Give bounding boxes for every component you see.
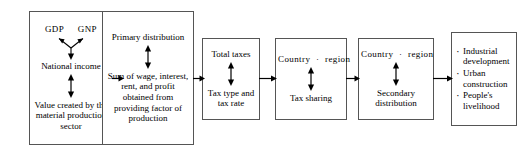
connector-arrow-primary-to-taxes-icon xyxy=(193,74,205,83)
country-region-label: Country · region xyxy=(276,54,346,65)
gdp-gnp-labels: GDP GNP xyxy=(30,24,112,35)
connector-arrow-secondary-to-spending-icon xyxy=(433,74,453,83)
spending-list: Industrial development Urban constructio… xyxy=(452,46,516,113)
region-label: region xyxy=(408,49,433,59)
total-taxes-label: Total taxes xyxy=(203,49,259,60)
stage-box-national-income: GDP GNP National income Value created by… xyxy=(29,11,113,145)
flow-diagram: GDP GNP National income Value created by… xyxy=(0,0,524,156)
stage-box-secondary-distribution: Country · region Secondary distribution xyxy=(358,38,434,120)
country-label: Country xyxy=(361,49,393,59)
region-label: region xyxy=(325,54,350,64)
value-created-label: Value created by the material production… xyxy=(30,100,112,132)
label-gap xyxy=(67,24,76,34)
gdp-label: GDP xyxy=(45,24,64,34)
secondary-distribution-label: Secondary distribution xyxy=(359,88,433,109)
double-headed-vertical-arrow-icon xyxy=(142,45,154,69)
connector-arrow-taxes-to-sharing-icon xyxy=(259,74,277,83)
middle-dot-icon: · xyxy=(396,49,405,59)
double-headed-vertical-arrow-icon xyxy=(305,67,317,91)
list-item: Industrial development xyxy=(456,46,513,67)
national-income-label: National income xyxy=(30,61,112,72)
tax-sharing-label: Tax sharing xyxy=(276,93,346,104)
y-branch-arrow-down-icon xyxy=(51,35,91,61)
double-headed-vertical-arrow-icon xyxy=(225,62,237,86)
gnp-label: GNP xyxy=(78,24,97,34)
connector-arrow-sharing-to-secondary-icon xyxy=(346,74,360,83)
country-label: Country xyxy=(278,54,310,64)
list-item: People's livelihood xyxy=(456,90,513,111)
middle-dot-icon: · xyxy=(313,54,322,64)
connector-arrow-income-to-primary-icon xyxy=(112,74,124,83)
stage-box-tax-sharing: Country · region Tax sharing xyxy=(275,38,347,120)
stage-box-spending-targets: Industrial development Urban constructio… xyxy=(451,32,517,126)
country-region-label: Country · region xyxy=(359,49,433,60)
double-headed-vertical-arrow-icon xyxy=(390,62,402,86)
stage-box-total-taxes: Total taxes Tax type and tax rate xyxy=(202,38,260,120)
double-headed-vertical-arrow-icon xyxy=(65,74,77,98)
tax-type-and-rate-label: Tax type and tax rate xyxy=(203,88,259,109)
list-item: Urban construction xyxy=(456,68,513,89)
primary-distribution-label: Primary distribution xyxy=(103,32,193,43)
